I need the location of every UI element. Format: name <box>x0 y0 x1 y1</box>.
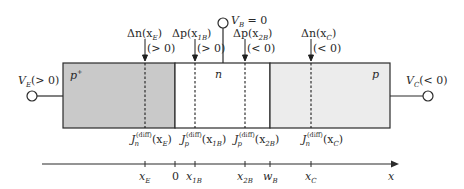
diffusion-current-label: Jn(diff)(xE) <box>129 131 172 148</box>
emitter-terminal-icon <box>27 91 37 101</box>
collector-region-label: p <box>372 68 379 81</box>
base-terminal-icon <box>218 18 228 28</box>
excess-carrier-label: Δp(x2B) <box>233 27 272 42</box>
diffusion-current-label: Jn(diff)(xC) <box>300 131 343 148</box>
emitter-voltage-label: VE(> 0) <box>18 74 59 89</box>
tick-label-xE: xE <box>139 170 150 185</box>
excess-carrier-label: Δn(xC) <box>301 27 336 42</box>
axis-arrow-icon <box>391 161 399 168</box>
axis-label: x <box>388 170 395 183</box>
tick-label-x2B: x2B <box>237 170 253 185</box>
base-region-label: n <box>215 68 222 81</box>
diffusion-current-label: Jp(diff)(x1B) <box>179 131 226 148</box>
tick-label-0: 0 <box>172 170 179 183</box>
tick-label-wB: wB <box>263 170 278 185</box>
bjt-diagram: p+ n p VE(> 0) VC(< 0) VB = 0 Δn(xE) (> … <box>0 0 464 189</box>
base-region <box>175 63 270 128</box>
excess-carrier-label: Δn(xE) <box>127 27 162 42</box>
excess-carrier-sign: (> 0) <box>197 42 225 55</box>
excess-carrier-sign: (< 0) <box>247 42 275 55</box>
diffusion-current-label: Jp(diff)(x2B) <box>232 131 279 148</box>
collector-voltage-label: VC(< 0) <box>406 74 448 89</box>
collector-terminal-icon <box>423 91 433 101</box>
excess-carrier-sign: (> 0) <box>147 42 175 55</box>
excess-carrier-sign: (< 0) <box>313 42 341 55</box>
tick-label-xC: xC <box>305 170 317 185</box>
excess-carrier-label: Δp(x1B) <box>172 27 211 42</box>
tick-label-x1B: x1B <box>186 170 202 185</box>
